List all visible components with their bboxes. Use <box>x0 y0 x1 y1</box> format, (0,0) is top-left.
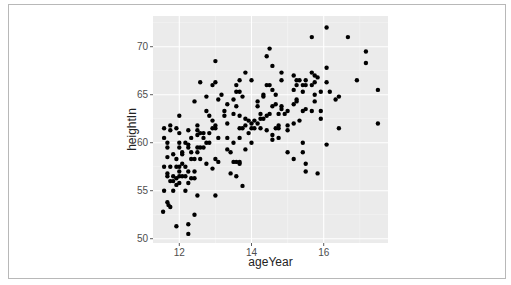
data-point <box>177 141 181 145</box>
data-point <box>292 157 296 161</box>
data-point <box>274 93 278 97</box>
data-point <box>246 131 250 135</box>
data-point <box>265 54 269 58</box>
data-point <box>292 73 296 77</box>
data-point <box>222 114 226 118</box>
data-point <box>216 97 220 101</box>
data-point <box>228 171 232 175</box>
data-point <box>192 213 196 217</box>
data-point <box>337 126 341 130</box>
data-point <box>198 157 202 161</box>
data-point <box>324 66 328 70</box>
data-point <box>237 162 241 166</box>
data-point <box>267 112 271 116</box>
data-point <box>304 169 308 173</box>
data-point <box>294 83 298 87</box>
data-point <box>258 126 262 130</box>
data-point <box>243 147 247 151</box>
data-point <box>285 109 289 113</box>
data-point <box>216 136 220 140</box>
data-point <box>192 99 196 103</box>
data-point <box>337 94 341 98</box>
data-point <box>192 157 196 161</box>
data-point <box>376 88 380 92</box>
data-point <box>255 121 259 125</box>
data-point <box>279 78 283 82</box>
data-point <box>207 131 211 135</box>
data-point <box>276 126 280 130</box>
data-point <box>304 107 308 111</box>
data-point <box>270 88 274 92</box>
data-point <box>192 169 196 173</box>
scatter-plot: 5055606570 121416 ageYear heightIn <box>0 0 511 285</box>
data-point <box>249 141 253 145</box>
y-axis: 5055606570 <box>137 41 153 244</box>
data-point <box>210 166 214 170</box>
data-point <box>165 155 169 159</box>
data-point <box>279 107 283 111</box>
data-point <box>225 121 229 125</box>
data-point <box>324 25 328 29</box>
data-point <box>213 126 217 130</box>
data-point <box>265 128 269 132</box>
data-point <box>183 165 187 169</box>
data-point <box>177 145 181 149</box>
data-point <box>310 109 314 113</box>
data-point <box>195 123 199 127</box>
data-point <box>315 75 319 79</box>
data-point <box>165 145 169 149</box>
data-point <box>165 141 169 145</box>
data-point <box>315 171 319 175</box>
data-point <box>249 78 253 82</box>
data-point <box>297 118 301 122</box>
data-point <box>376 121 380 125</box>
data-point <box>234 174 238 178</box>
data-point <box>324 80 328 84</box>
data-point <box>180 150 184 154</box>
data-point <box>319 117 323 121</box>
data-point <box>174 157 178 161</box>
data-point <box>171 152 175 156</box>
data-point <box>161 210 165 214</box>
data-point <box>177 181 181 185</box>
data-point <box>243 123 247 127</box>
y-tick-label: 55 <box>137 185 149 196</box>
data-point <box>171 189 175 193</box>
data-point <box>204 109 208 113</box>
data-point <box>225 136 229 140</box>
data-point <box>186 181 190 185</box>
data-point <box>168 205 172 209</box>
data-point <box>183 174 187 178</box>
y-tick-label: 65 <box>137 89 149 100</box>
data-point <box>225 147 229 151</box>
data-point <box>195 150 199 154</box>
data-point <box>319 109 323 113</box>
data-point <box>304 162 308 166</box>
data-point <box>270 64 274 68</box>
data-point <box>183 189 187 193</box>
data-point <box>310 35 314 39</box>
data-point <box>301 150 305 154</box>
data-point <box>274 102 278 106</box>
data-point <box>267 46 271 50</box>
data-point <box>201 136 205 140</box>
data-point <box>168 128 172 132</box>
data-point <box>162 165 166 169</box>
data-point <box>364 61 368 65</box>
data-point <box>165 174 169 178</box>
data-point <box>222 109 226 113</box>
data-point <box>189 136 193 140</box>
data-point <box>177 114 181 118</box>
data-point <box>237 136 241 140</box>
data-point <box>313 93 317 97</box>
data-point <box>355 78 359 82</box>
data-point <box>174 126 178 130</box>
data-point <box>261 94 265 98</box>
data-point <box>276 136 280 140</box>
x-tick-label: 12 <box>174 247 186 258</box>
data-point <box>228 150 232 154</box>
data-point <box>234 83 238 87</box>
data-point <box>285 123 289 127</box>
data-point <box>255 99 259 103</box>
data-point <box>192 176 196 180</box>
